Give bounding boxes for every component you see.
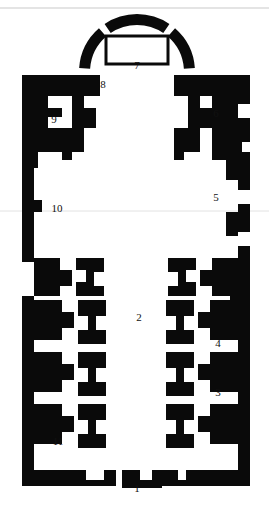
label-11: 11	[53, 435, 64, 447]
label-5: 5	[213, 191, 219, 203]
label-4: 4	[215, 337, 221, 349]
floor-plan-drawing: 1234567891011	[0, 0, 269, 506]
label-3: 3	[215, 386, 221, 398]
left-outer-wall-lower	[22, 296, 34, 478]
label-9: 9	[51, 113, 57, 125]
label-6: 6	[213, 107, 219, 119]
floor-plan-figure: 1234567891011	[0, 0, 269, 506]
label-10: 10	[52, 202, 64, 214]
label-7: 7	[134, 59, 140, 71]
label-2: 2	[136, 311, 142, 323]
label-8: 8	[100, 78, 106, 90]
label-1: 1	[134, 482, 140, 494]
